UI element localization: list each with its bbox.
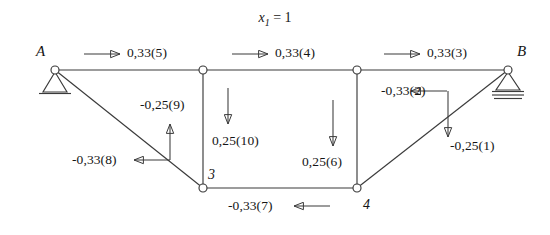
force-label-9: -0,25(9) — [140, 98, 185, 112]
node-label-3: 3 — [208, 168, 215, 182]
joint-4 — [353, 184, 361, 192]
truss-svg — [0, 0, 550, 235]
force-label-2: -0,33(2) — [381, 84, 426, 98]
member-right-diagonal — [357, 70, 508, 188]
truss-members — [55, 70, 508, 188]
member-left-diagonal — [55, 70, 203, 188]
truss-force-diagram: x1 = 1 — [0, 0, 550, 235]
truss-joints — [51, 66, 512, 192]
joint-t1 — [199, 66, 207, 74]
joint-3 — [199, 184, 207, 192]
force-arrows — [84, 54, 448, 206]
force-label-8: -0,33(8) — [72, 153, 117, 167]
force-label-6: 0,25(6) — [302, 155, 342, 169]
joint-b — [504, 66, 512, 74]
force-label-5: 0,33(5) — [127, 46, 167, 60]
joint-a — [51, 66, 59, 74]
force-label-4: 0,33(4) — [275, 46, 315, 60]
support-roller-b — [492, 72, 524, 99]
node-label-b: B — [517, 44, 526, 59]
node-label-a: A — [36, 44, 45, 59]
force-label-7: -0,33(7) — [228, 199, 273, 213]
force-label-1: -0,25(1) — [450, 139, 495, 153]
force-label-10: 0,25(10) — [212, 134, 259, 148]
node-label-4: 4 — [363, 198, 370, 212]
joint-t2 — [353, 66, 361, 74]
force-label-3: 0,33(3) — [427, 46, 467, 60]
support-pin-a — [39, 72, 71, 94]
